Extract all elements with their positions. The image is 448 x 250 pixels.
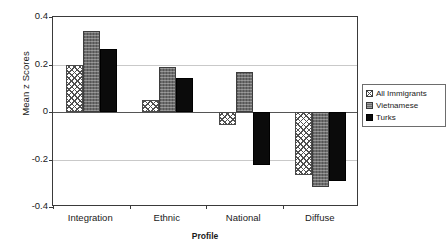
- y-tick-mark: [49, 112, 53, 113]
- legend-label: Vietnamese: [376, 101, 418, 110]
- x-tick-mark: [130, 205, 131, 209]
- x-tick-mark: [283, 205, 284, 209]
- bar: [176, 78, 193, 112]
- x-axis-title: Profile: [52, 231, 358, 241]
- legend-swatch-icon: [366, 102, 373, 109]
- bar: [253, 112, 270, 165]
- bar-chart: Mean z Scores 0.40.20-0.2-0.4 Profile Al…: [0, 0, 448, 250]
- y-tick-mark: [49, 160, 53, 161]
- bar: [295, 112, 312, 175]
- chart-legend: All ImmigrantsVietnameseTurks: [362, 84, 446, 127]
- bar: [66, 65, 83, 113]
- x-tick-label: Diffuse: [270, 212, 370, 223]
- y-tick-label: -0.2: [14, 154, 48, 164]
- plot-area: [52, 16, 358, 206]
- legend-item: All Immigrants: [366, 88, 443, 99]
- legend-label: Turks: [376, 113, 396, 122]
- legend-item: Vietnamese: [366, 100, 443, 111]
- bar: [83, 31, 100, 112]
- legend-label: All Immigrants: [376, 89, 427, 98]
- y-tick-label: -0.4: [14, 201, 48, 211]
- x-tick-mark: [53, 205, 54, 209]
- y-tick-mark: [49, 17, 53, 18]
- bar: [219, 112, 236, 125]
- y-tick-label: 0.2: [14, 59, 48, 69]
- x-tick-mark: [206, 205, 207, 209]
- legend-swatch-icon: [366, 90, 373, 97]
- legend-swatch-icon: [366, 114, 373, 121]
- bar: [329, 112, 346, 181]
- bar: [159, 67, 176, 112]
- bar: [312, 112, 329, 187]
- bar: [142, 100, 159, 112]
- y-tick-mark: [49, 65, 53, 66]
- y-tick-label: 0: [14, 106, 48, 116]
- bar: [236, 72, 253, 112]
- bar: [100, 49, 117, 112]
- y-tick-label: 0.4: [14, 11, 48, 21]
- legend-item: Turks: [366, 112, 443, 123]
